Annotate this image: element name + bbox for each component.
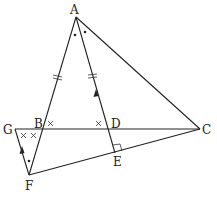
label-G: G	[3, 123, 13, 137]
angle-dot-A1	[74, 34, 77, 37]
label-D: D	[111, 117, 121, 131]
label-B: B	[34, 117, 43, 131]
segment-AE	[76, 17, 115, 153]
label-E: E	[113, 155, 122, 169]
angle-dot-F	[28, 160, 31, 163]
x-mark-G1	[21, 133, 26, 138]
label-A: A	[69, 3, 79, 17]
x-mark-B	[48, 121, 53, 126]
label-F: F	[25, 179, 33, 193]
x-mark-G2	[31, 133, 36, 138]
geometry-diagram: A B C D E F G	[0, 0, 217, 197]
segment-AF	[29, 17, 76, 175]
x-mark-D	[96, 121, 101, 126]
label-C: C	[202, 123, 211, 137]
segment-AC	[76, 17, 200, 129]
angle-dot-A2	[84, 31, 87, 34]
